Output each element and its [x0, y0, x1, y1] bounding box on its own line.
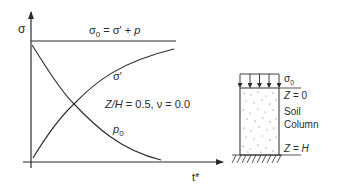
- top-depth-label: Z = 0: [283, 90, 308, 101]
- pore-pressure-label: p0: [112, 123, 124, 138]
- soil-column-name-line1: Soil: [284, 106, 301, 117]
- x-axis-label: t*: [192, 171, 200, 183]
- fixed-base-hatching: [232, 155, 282, 163]
- soil-column-body: [240, 88, 279, 155]
- surface-load-label: σ0: [284, 73, 294, 86]
- effective-stress-label: σ': [113, 70, 122, 82]
- soil-column-name-line2: Column: [284, 119, 318, 130]
- parameters-label: Z/H = 0.5, ν = 0.0: [104, 98, 190, 110]
- total-stress-equation: σ0 = σ' + p: [89, 24, 140, 39]
- y-axis-label: σ: [18, 22, 26, 36]
- surface-load-arrows: [240, 74, 279, 87]
- consolidation-diagram: σ t* σ0 = σ' + p σ' p0 Z/H = 0.5, ν = 0.…: [0, 0, 344, 187]
- bottom-depth-label: Z = H: [283, 143, 310, 154]
